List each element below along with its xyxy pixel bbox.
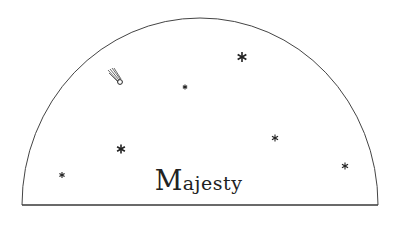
brand-name: Majesty: [0, 165, 397, 196]
star-icon: [117, 145, 125, 154]
star-icon: [183, 85, 187, 90]
star-icon: [272, 135, 278, 142]
brand-rest: ajesty: [183, 172, 243, 194]
comet-icon: [108, 68, 122, 84]
stars-group: [59, 52, 348, 178]
brand-initial: M: [155, 165, 183, 196]
star-icon: [238, 52, 247, 62]
